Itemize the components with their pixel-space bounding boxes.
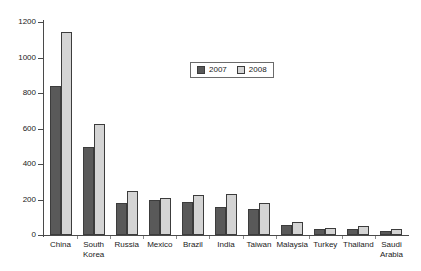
bar xyxy=(215,207,226,235)
bar-group xyxy=(314,22,336,235)
bar xyxy=(83,147,94,235)
x-axis-label: Mexico xyxy=(143,240,176,250)
y-axis-tick xyxy=(38,58,43,59)
x-axis-tick xyxy=(143,236,144,239)
x-axis-label: Turkey xyxy=(309,240,342,250)
x-axis-tick xyxy=(110,236,111,239)
bar xyxy=(292,222,303,235)
bar-group xyxy=(116,22,138,235)
bar xyxy=(127,191,138,235)
bar xyxy=(380,231,391,235)
x-axis-tick xyxy=(209,236,210,239)
x-axis-label: Saudi Arabia xyxy=(375,240,408,260)
bar-group xyxy=(182,22,204,235)
x-axis-label: Taiwan xyxy=(243,240,276,250)
y-axis-tick xyxy=(38,200,43,201)
bar-group xyxy=(248,22,270,235)
bar xyxy=(94,124,105,235)
x-axis-label: Thailand xyxy=(342,240,375,250)
x-axis-label: Malaysia xyxy=(276,240,309,250)
y-axis-tick-label: 800 xyxy=(2,89,36,97)
bar xyxy=(149,200,160,235)
bar-group xyxy=(50,22,72,235)
bar xyxy=(358,226,369,235)
legend-item: 2007 xyxy=(197,66,227,74)
x-axis-tick xyxy=(375,236,376,239)
bar xyxy=(259,203,270,235)
bar-group xyxy=(215,22,237,235)
bar-group xyxy=(380,22,402,235)
y-axis-tick-label: 1200 xyxy=(2,18,36,26)
bar xyxy=(61,32,72,235)
x-axis-tick xyxy=(342,236,343,239)
y-axis-tick-label: 400 xyxy=(2,160,36,168)
bar xyxy=(50,86,61,235)
bar-group xyxy=(347,22,369,235)
y-axis-tick-label: 200 xyxy=(2,196,36,204)
bar-chart: 020040060080010001200 ChinaSouth KoreaRu… xyxy=(0,0,421,271)
bar xyxy=(281,225,292,235)
x-axis-tick xyxy=(276,236,277,239)
bar-group xyxy=(281,22,303,235)
bar xyxy=(314,229,325,235)
y-axis-tick xyxy=(38,22,43,23)
bar xyxy=(248,209,259,235)
y-axis-tick-label: 600 xyxy=(2,125,36,133)
y-axis-tick xyxy=(38,235,43,236)
legend-swatch-icon xyxy=(237,66,245,74)
plot-area xyxy=(44,22,408,235)
x-axis-tick xyxy=(309,236,310,239)
x-axis-tick xyxy=(77,236,78,239)
bar xyxy=(391,229,402,235)
bar xyxy=(193,195,204,235)
x-axis-label: South Korea xyxy=(77,240,110,260)
x-axis-label: China xyxy=(44,240,77,250)
bar xyxy=(182,202,193,235)
y-axis-tick-label: 0 xyxy=(2,231,36,239)
y-axis-tick xyxy=(38,129,43,130)
chart-legend: 20072008 xyxy=(190,62,274,78)
x-axis-label: India xyxy=(209,240,242,250)
y-axis-tick-label: 1000 xyxy=(2,54,36,62)
x-axis-label: Brazil xyxy=(176,240,209,250)
bar-group xyxy=(83,22,105,235)
bar-group xyxy=(149,22,171,235)
bar xyxy=(347,229,358,235)
bar xyxy=(160,198,171,235)
bar xyxy=(226,194,237,235)
x-axis-line xyxy=(43,235,409,236)
bar xyxy=(116,203,127,235)
y-axis-tick xyxy=(38,164,43,165)
x-axis-tick xyxy=(176,236,177,239)
legend-item: 2008 xyxy=(237,66,267,74)
legend-label: 2008 xyxy=(249,66,267,74)
legend-swatch-icon xyxy=(197,66,205,74)
x-axis-tick xyxy=(243,236,244,239)
x-axis-label: Russia xyxy=(110,240,143,250)
bar xyxy=(325,228,336,235)
y-axis-tick xyxy=(38,93,43,94)
legend-label: 2007 xyxy=(209,66,227,74)
